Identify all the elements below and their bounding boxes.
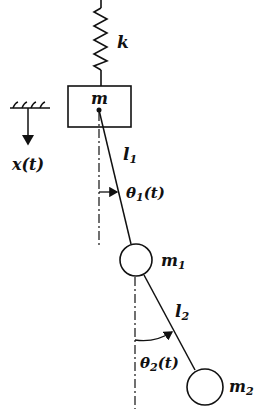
displacement-label: x(t): [11, 155, 44, 174]
spring-constant-label: k: [117, 32, 129, 52]
ground-reference: [10, 102, 50, 108]
spring: [94, 0, 107, 86]
mass-label: m: [91, 89, 108, 108]
angle-2-label: θ2(t): [140, 354, 179, 374]
length-1-label: l1: [123, 144, 137, 166]
mass-2-label: m2: [229, 377, 254, 398]
mass-1-label: m1: [161, 251, 186, 272]
mass-2-bob: [187, 369, 223, 405]
angle-2-arrow: [135, 332, 172, 341]
angle-1-label: θ1(t): [126, 184, 165, 204]
mass-1-bob: [120, 244, 152, 276]
length-2-label: l2: [175, 301, 189, 323]
pendulum-diagram: k m x(t) l1 θ1(t) m1 l2 θ2(t) m2: [0, 0, 257, 409]
rod-1: [99, 110, 131, 244]
